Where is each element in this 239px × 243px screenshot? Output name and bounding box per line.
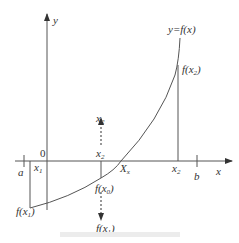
Xx-label: Xx bbox=[119, 162, 131, 176]
x1-label: x1 bbox=[33, 161, 42, 175]
x2-top-label: x2 bbox=[95, 112, 105, 126]
x2-axis-label: x2 bbox=[171, 162, 181, 176]
a-label: a bbox=[18, 166, 24, 178]
x2-mid-label: x2 bbox=[95, 147, 105, 161]
x-axis-label: x bbox=[215, 165, 221, 177]
y-axis-label: y bbox=[52, 14, 58, 26]
fx2-label: f(x2) bbox=[182, 63, 201, 77]
figure-caption bbox=[60, 232, 180, 237]
curve-label: y=f(x) bbox=[167, 23, 196, 36]
newton-method-diagram: y x 0 y=f(x) a b x1 x2 x2 x2 Xx f(x2) f(… bbox=[0, 0, 239, 243]
origin-label: 0 bbox=[40, 147, 46, 159]
fx1-left-label: f(x1) bbox=[16, 205, 35, 219]
fx0-label: f(x0) bbox=[95, 182, 114, 196]
b-label: b bbox=[194, 170, 200, 182]
